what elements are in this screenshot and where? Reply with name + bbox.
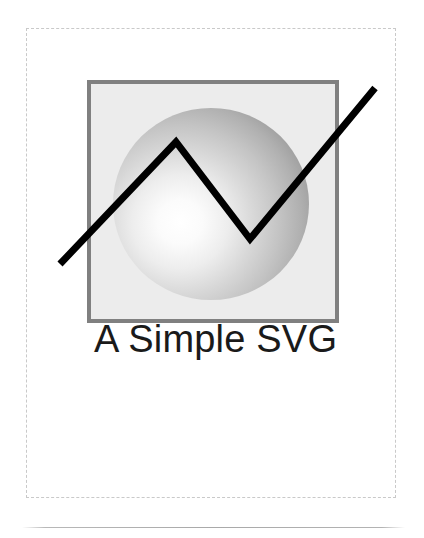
figure-caption-text: A Simple SVG [0,0,1,1]
document-title: A Simple SVG [0,0,1,1]
simple-svg-figure: A Simple SVG [27,29,397,499]
page-root: A Simple SVG A Simple SVG A Simple SVG [0,0,424,538]
footer-divider [22,527,405,528]
svg-viewport-outline: A Simple SVG [26,28,396,498]
figure-caption: A Simple SVG [94,318,337,360]
svg-illustration-stage: A Simple SVG [27,29,397,499]
